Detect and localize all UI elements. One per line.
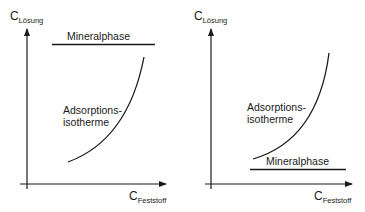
right-x-axis-label: CFeststoff	[314, 190, 351, 207]
right-isotherm-label-line1: Adsorptions-	[247, 101, 306, 113]
left-isotherm-label-line2: isotherme	[63, 116, 109, 128]
left-x-axis-label: CFeststoff	[129, 190, 166, 207]
left-y-axis-label: CLösung	[10, 10, 43, 27]
left-isotherm-label-line1: Adsorptions-	[63, 104, 122, 116]
left-mineral-label: Mineralphase	[67, 30, 130, 42]
right-isotherm-label-line2: isotherme	[247, 113, 293, 125]
right-mineral-label: Mineralphase	[266, 155, 329, 167]
right-y-axis-label: CLösung	[194, 10, 227, 27]
diagram-canvas	[0, 0, 365, 212]
